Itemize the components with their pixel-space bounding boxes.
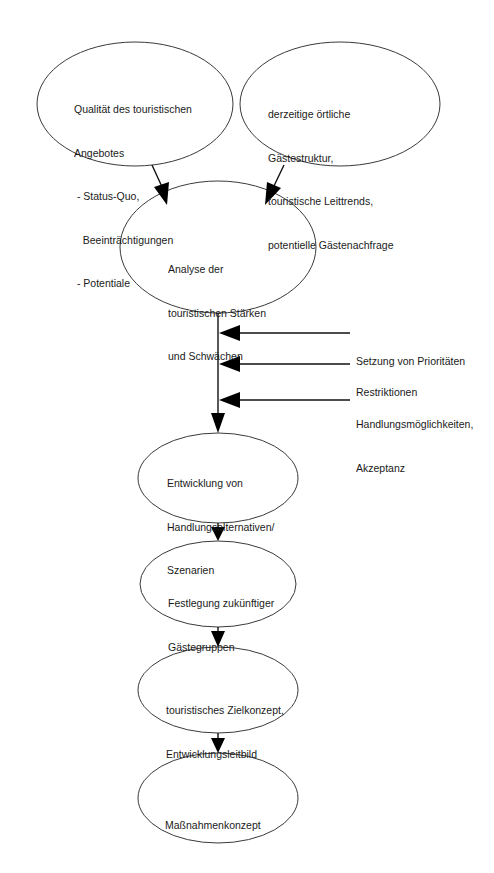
label-line: Gästestruktur,	[268, 151, 394, 166]
label-line: Maßnahmenkonzept	[165, 818, 261, 833]
label-line: - Status-Quo,	[74, 189, 192, 204]
node-analyse-label: Analyse der touristischen Stärken und Sc…	[168, 233, 266, 378]
label-line: Analyse der	[168, 262, 266, 277]
arrowhead-icon	[219, 392, 240, 408]
arrowhead-icon	[211, 413, 225, 433]
node-gaeste-label: derzeitige örtliche Gästestruktur, touri…	[268, 78, 394, 267]
label-line: touristisches Zielkonzept,	[166, 703, 284, 718]
label-line: derzeitige örtliche	[268, 107, 394, 122]
label-line: Angebotes	[74, 146, 192, 161]
label-line: Handlungsmöglichkeiten,	[356, 417, 473, 432]
label-line: Gästegruppen	[168, 640, 274, 655]
side-input-handlung-label: Handlungsmöglichkeiten, Akzeptanz	[356, 388, 473, 490]
label-line: Handlungsalternativen/	[167, 520, 274, 535]
node-massnahmen-label: Maßnahmenkonzept	[165, 789, 261, 847]
label-line: potentielle Gästenachfrage	[268, 238, 394, 253]
label-line: touristischen Stärken	[168, 306, 266, 321]
label-line: Entwicklungsleitbild	[166, 747, 284, 762]
edge-handlung	[219, 392, 350, 408]
node-zielkonzept-label: touristisches Zielkonzept, Entwicklungsl…	[166, 674, 284, 776]
label-line: Akzeptanz	[356, 461, 473, 476]
label-line: Festlegung zukünftiger	[168, 596, 274, 611]
label-line: Entwicklung von	[167, 476, 274, 491]
label-line: Qualität des touristischen	[74, 102, 192, 117]
node-festlegung-label: Festlegung zukünftiger Gästegruppen	[168, 567, 274, 669]
label-line: und Schwächen	[168, 349, 266, 364]
label-line: touristische Leittrends,	[268, 194, 394, 209]
